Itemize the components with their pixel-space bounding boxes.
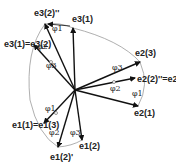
label-e2-2pp-eq-e2-2p: e2(2)''=e2(2)' (137, 74, 176, 84)
label-e2-3: e2(3) (135, 48, 156, 58)
label-e1-2: e1(2) (79, 141, 100, 151)
rotation-vectors-diagram: φ1 φ2 φ3 φ3 φ2 φ1 φ1 φ2 φ3 e3(1) e3(2)''… (0, 0, 176, 167)
angle-label-phi3: φ3 (112, 63, 123, 72)
label-e3-2pp: e3(2)'' (34, 8, 59, 18)
angle-label-phi2: φ2 (110, 84, 121, 93)
angle-label-phi3: φ3 (70, 128, 81, 137)
angle-label-phi1: φ1 (52, 24, 63, 33)
label-e2-1: e2(1) (134, 108, 155, 118)
label-e3-1-eq-e3-2: e3(1)=e3(2) (4, 39, 51, 49)
angle-label-phi3: φ3 (46, 61, 57, 70)
arc-right (138, 62, 145, 106)
diagram-svg: φ1 φ2 φ3 φ3 φ2 φ1 φ1 φ2 φ3 e3(1) e3(2)''… (0, 0, 176, 167)
vector-e2-2pp (75, 78, 135, 90)
angle-label-phi1: φ1 (45, 104, 56, 113)
vector-e2-3 (75, 62, 140, 90)
vector-e3-2pp (45, 24, 75, 90)
vector-labels: e3(1) e3(2)'' e3(1)=e3(2) e2(3) e2(2)''=… (4, 8, 176, 162)
vector-e3-1 (73, 28, 75, 90)
vector-e2-1 (75, 90, 138, 106)
label-e1-1-eq-e1-3: e1(1)=e1(3) (12, 120, 59, 130)
label-e1-2p: e1(2)' (50, 152, 73, 162)
label-e3-1: e3(1) (72, 14, 93, 24)
angle-label-phi1: φ1 (132, 89, 143, 98)
